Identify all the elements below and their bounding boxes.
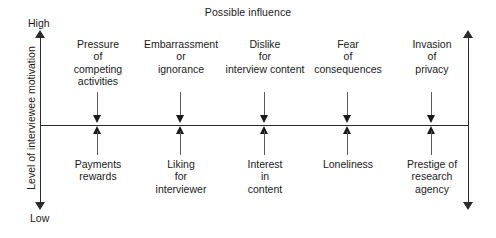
negative-influence-label: Invasionofprivacy (377, 38, 487, 75)
influence-diagram: Possible influence High Low Level of int… (0, 0, 496, 238)
arrow-down-icon (343, 115, 351, 123)
arrow-down-icon (427, 115, 435, 123)
factor-column: InvasionofprivacyPrestige ofresearchagen… (377, 0, 487, 238)
connector-stem-lower (431, 131, 432, 155)
positive-influence-label: Prestige ofresearchagency (377, 158, 487, 195)
connector-stem-lower (97, 131, 98, 155)
connector-stem-lower (264, 131, 265, 155)
arrow-down-icon (260, 115, 268, 123)
axis-caption: Level of interviewee motivation (25, 33, 37, 203)
arrow-down-icon (176, 115, 184, 123)
connector-stem-lower (180, 131, 181, 155)
axis-shaft (40, 35, 41, 205)
connector-stem-lower (347, 131, 348, 155)
arrow-down-icon (93, 115, 101, 123)
